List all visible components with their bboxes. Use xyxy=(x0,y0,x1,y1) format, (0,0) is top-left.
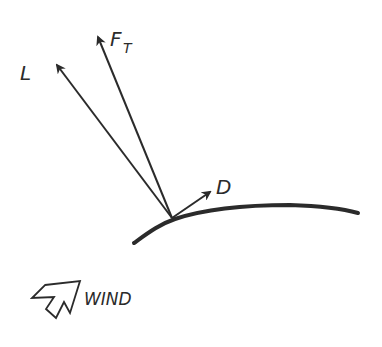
total-force-subscript: T xyxy=(123,40,133,56)
total-force-vector xyxy=(98,37,172,218)
drag-label: D xyxy=(216,175,231,199)
wind-label: WIND xyxy=(84,289,132,309)
lift-vector xyxy=(57,65,172,218)
total-force-label: F xyxy=(110,27,122,51)
force-diagram: L F T D WIND xyxy=(0,0,382,347)
lift-label: L xyxy=(20,61,31,85)
wind-arrow-icon xyxy=(32,281,80,318)
